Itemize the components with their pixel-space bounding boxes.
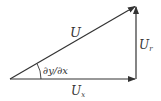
y-component-subscript: r <box>149 45 153 53</box>
resultant-vector-arrow <box>10 7 135 80</box>
vector-diagram: U ∂y/∂x Ur Ux <box>0 0 161 101</box>
x-component-label: Ux <box>71 84 85 99</box>
angle-arc <box>37 64 41 80</box>
resultant-label: U <box>70 25 82 40</box>
angle-label: ∂y/∂x <box>43 65 68 76</box>
y-component-label: Ur <box>139 38 153 53</box>
x-component-subscript: x <box>81 91 85 99</box>
